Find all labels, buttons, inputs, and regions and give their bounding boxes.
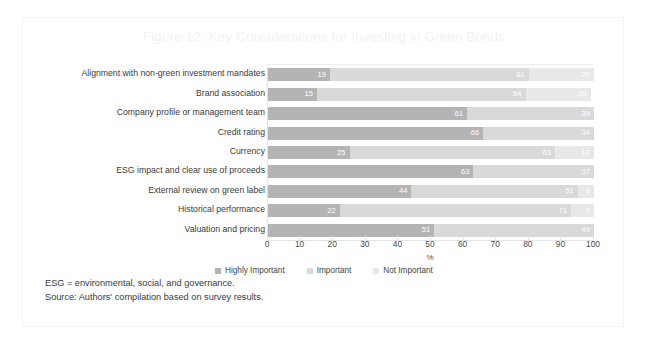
x-axis-tick-mark — [463, 236, 464, 240]
bar-value-label: 34 — [582, 129, 590, 137]
x-axis-tick-label: 20 — [328, 240, 337, 248]
x-axis-tick-mark — [528, 236, 529, 240]
bar-value-label: 61 — [516, 71, 524, 79]
bar-value-label: 12 — [582, 149, 590, 157]
bar-segment: 25 — [268, 146, 350, 159]
bar-value-label: 25 — [337, 149, 345, 157]
figure-title: Figure 12: Key Considerations for Invest… — [23, 29, 625, 44]
y-axis-label: ESG impact and clear use of proceeds — [23, 166, 265, 175]
chart-plot-wrapper: Alignment with non-green investment mand… — [23, 64, 625, 264]
x-axis-tick-label: 0 — [265, 240, 270, 248]
y-axis-label: Company profile or management team — [23, 108, 265, 117]
bar-value-label: 64 — [513, 90, 521, 98]
bar-value-label: 37 — [582, 168, 590, 176]
x-axis-tick-label: 100 — [586, 240, 600, 248]
bar-segment: 51 — [411, 185, 577, 198]
bar-segment: 61 — [268, 107, 467, 120]
bar-segment: 71 — [340, 204, 571, 217]
chart-legend: Highly ImportantImportantNot Important — [23, 267, 625, 275]
bar-value-label: 51 — [565, 188, 573, 196]
bar-row: 256312 — [268, 146, 594, 159]
bar-value-label: 63 — [542, 149, 550, 157]
x-axis-tick-label: 90 — [556, 240, 565, 248]
bar-segment: 7 — [571, 204, 594, 217]
legend-item[interactable]: Important — [307, 267, 352, 275]
bar-segment: 34 — [483, 127, 594, 140]
legend-swatch-icon — [373, 268, 379, 274]
y-axis-labels: Alignment with non-green investment mand… — [23, 64, 265, 239]
bar-segment: 20 — [526, 88, 591, 101]
x-axis-tick-label: 30 — [360, 240, 369, 248]
bar-value-label: 39 — [582, 110, 590, 118]
bar-segment: 15 — [268, 88, 317, 101]
x-axis-tick-label: 10 — [295, 240, 304, 248]
legend-swatch-icon — [307, 268, 313, 274]
bar-value-label: 61 — [454, 110, 462, 118]
y-axis-label: Alignment with non-green investment mand… — [23, 69, 265, 78]
bar-value-label: 15 — [304, 90, 312, 98]
x-axis-tick-label: 70 — [491, 240, 500, 248]
bar-value-label: 20 — [582, 71, 590, 79]
x-axis-tick-mark — [495, 236, 496, 240]
x-axis-tick-mark — [267, 236, 268, 240]
x-axis-tick-mark — [365, 236, 366, 240]
bar-segment: 5 — [578, 185, 594, 198]
x-axis-tick-label: 80 — [523, 240, 532, 248]
y-axis-label: Credit rating — [23, 128, 265, 137]
bar-row: 6337 — [268, 165, 594, 178]
bar-segment: 37 — [473, 165, 594, 178]
y-axis-label: Currency — [23, 147, 265, 156]
note-abbreviation: ESG = environmental, social, and governa… — [45, 276, 605, 290]
bar-segment: 61 — [330, 68, 529, 81]
note-source: Source: Authors' compilation based on su… — [45, 290, 605, 304]
bar-segment: 63 — [268, 165, 473, 178]
x-axis-title: % — [267, 253, 593, 262]
bar-row: 5149 — [268, 224, 594, 237]
bar-segment: 66 — [268, 127, 483, 140]
bar-value-label: 19 — [317, 71, 325, 79]
bar-segment: 49 — [434, 224, 594, 237]
bar-value-label: 7 — [586, 207, 590, 215]
bar-segment: 22 — [268, 204, 340, 217]
legend-label: Important — [317, 267, 352, 275]
bar-row: 196120 — [268, 68, 594, 81]
bar-value-label: 71 — [559, 207, 567, 215]
legend-item[interactable]: Not Important — [373, 267, 433, 275]
bar-segment: 44 — [268, 185, 411, 198]
bar-value-label: 63 — [461, 168, 469, 176]
x-axis-ticks: 0102030405060708090100 — [267, 240, 593, 254]
figure-card: Figure 12: Key Considerations for Invest… — [22, 17, 624, 327]
bar-value-label: 66 — [471, 129, 479, 137]
y-axis-label: Historical performance — [23, 205, 265, 214]
bar-segment: 19 — [268, 68, 330, 81]
bar-value-label: 5 — [586, 188, 590, 196]
x-axis-tick-mark — [397, 236, 398, 240]
bar-value-label: 51 — [422, 226, 430, 234]
bar-segment: 12 — [555, 146, 594, 159]
bar-value-label: 49 — [582, 226, 590, 234]
bar-segment: 63 — [350, 146, 555, 159]
legend-label: Highly Important — [225, 267, 285, 275]
figure-notes: ESG = environmental, social, and governa… — [45, 276, 605, 305]
bar-segment: 51 — [268, 224, 434, 237]
bar-value-label: 44 — [399, 188, 407, 196]
y-axis-label: Valuation and pricing — [23, 225, 265, 234]
x-axis-tick-label: 60 — [458, 240, 467, 248]
legend-item[interactable]: Highly Important — [215, 267, 285, 275]
y-axis-label: External review on green label — [23, 186, 265, 195]
legend-swatch-icon — [215, 268, 221, 274]
chart-plot-area: 1961201564206139663425631263374451522717… — [267, 64, 594, 241]
x-axis-tick-mark — [593, 236, 594, 240]
bar-row: 44515 — [268, 185, 594, 198]
bar-row: 22717 — [268, 204, 594, 217]
bar-value-label: 22 — [327, 207, 335, 215]
bar-value-label: 20 — [578, 90, 586, 98]
x-axis-tick-label: 40 — [393, 240, 402, 248]
bar-row: 156420 — [268, 88, 594, 101]
y-axis-label: Brand association — [23, 89, 265, 98]
x-axis-tick-mark — [300, 236, 301, 240]
bar-row: 6139 — [268, 107, 594, 120]
x-axis-tick-mark — [430, 236, 431, 240]
bar-row: 6634 — [268, 127, 594, 140]
bar-segment: 20 — [529, 68, 594, 81]
